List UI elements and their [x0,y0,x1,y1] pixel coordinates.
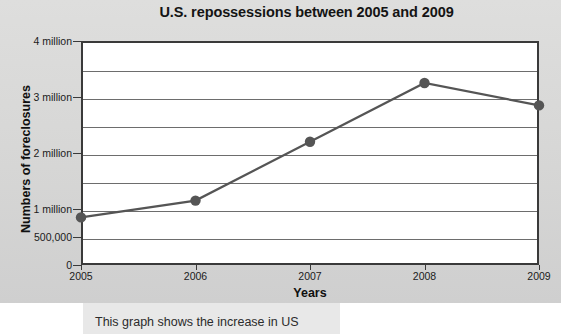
x-tick-mark [425,265,426,270]
data-point-marker [419,78,429,88]
y-tick-mark [73,97,81,98]
y-tick-label: 0 [0,259,72,271]
x-axis-title: Years [81,286,539,300]
y-tick-mark [73,153,81,154]
x-tick-label: 2009 [527,270,550,282]
y-tick-label: 3 million [0,91,72,103]
data-point-marker [305,137,315,147]
y-tick-mark [73,209,81,210]
y-tick-label: 4 million [0,35,72,47]
caption-text: This graph shows the increase in US [95,315,299,329]
y-tick-mark [73,237,81,238]
x-tick-mark [196,265,197,270]
chart-title: U.S. repossessions between 2005 and 2009 [0,4,561,20]
y-tick-label: 500,000 [0,231,72,243]
y-tick-mark [73,265,81,266]
y-tick-mark [73,41,81,42]
data-point-marker [534,100,544,110]
data-series-line [81,41,539,265]
y-tick-label: 2 million [0,147,72,159]
data-point-marker [190,195,200,205]
data-point-marker [76,212,86,222]
y-tick-label: 1 million [0,203,72,215]
figure-panel: U.S. repossessions between 2005 and 2009… [0,0,561,303]
x-tick-mark [81,265,82,270]
x-tick-label: 2006 [184,270,207,282]
series-line [81,83,539,217]
x-tick-label: 2008 [413,270,436,282]
caption-box: This graph shows the increase in US [83,303,340,334]
x-tick-label: 2005 [69,270,92,282]
y-axis-title: Numbers of foreclosures [19,59,33,259]
x-tick-label: 2007 [298,270,321,282]
x-tick-mark [310,265,311,270]
x-tick-mark [539,265,540,270]
